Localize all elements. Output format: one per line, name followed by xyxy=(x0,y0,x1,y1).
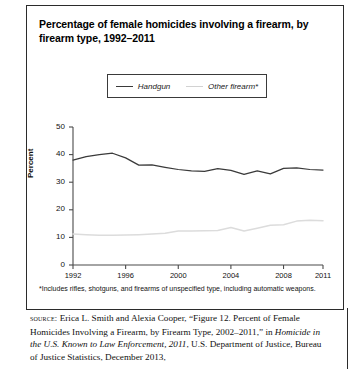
legend-swatch-other-firearm xyxy=(186,86,203,87)
x-tick-label: 1996 xyxy=(109,271,143,280)
y-tick-label: 10 xyxy=(47,232,65,241)
legend-item-handgun: Handgun xyxy=(116,82,170,91)
y-tick-label: 30 xyxy=(47,177,65,186)
legend-label-handgun: Handgun xyxy=(138,82,170,91)
y-axis-title: Percent xyxy=(26,149,35,178)
chart-legend: Handgun Other firearm* xyxy=(107,74,267,98)
chart-footnote: *Includes rifles, shotguns, and firearms… xyxy=(39,284,331,293)
source-label: source: xyxy=(30,314,57,323)
figure-panel: Percentage of female homicides involving… xyxy=(26,5,344,310)
legend-label-other-firearm: Other firearm* xyxy=(208,82,258,91)
source-note: source: Erica L. Smith and Alexia Cooper… xyxy=(30,312,330,363)
source-text-part1: Erica L. Smith and Alexia Cooper, “Figur… xyxy=(30,313,300,337)
y-tick-label: 50 xyxy=(47,122,65,131)
x-tick-label: 1992 xyxy=(56,271,90,280)
y-tick-label: 40 xyxy=(47,149,65,158)
x-tick-label: 2011 xyxy=(306,271,340,280)
y-tick-label: 0 xyxy=(47,260,65,269)
right-margin-rule xyxy=(347,308,348,369)
line-chart-svg xyxy=(27,6,345,311)
chart-plot-area: Percent 01020304050 19921996200020042008… xyxy=(27,6,345,311)
page-title: Percentage of female homicides involving… xyxy=(39,18,324,45)
y-tick-label: 20 xyxy=(47,204,65,213)
x-tick-label: 2000 xyxy=(161,271,195,280)
legend-item-other-firearm: Other firearm* xyxy=(186,82,258,91)
legend-swatch-handgun xyxy=(116,86,133,87)
x-tick-label: 2008 xyxy=(267,271,301,280)
x-tick-label: 2004 xyxy=(214,271,248,280)
